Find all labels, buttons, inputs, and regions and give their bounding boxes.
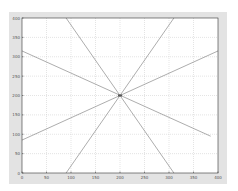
x-tick-label: 350 [190,175,198,180]
y-tick-label: 200 [12,93,20,98]
x-tick-label: 100 [67,175,75,180]
y-tick-label: 350 [12,35,20,40]
x-tick-label: 400 [214,175,222,180]
x-tick-label: 300 [165,175,173,180]
x-tick-label: 250 [141,175,149,180]
y-tick-label: 250 [12,74,20,79]
chart-plot: 0501001502002503003504000501001502002503… [0,0,238,191]
x-tick-label: 150 [92,175,100,180]
x-tick-label: 50 [44,175,50,180]
chart-figure: 0501001502002503003504000501001502002503… [0,0,238,191]
x-tick-label: 0 [21,175,24,180]
center-marker [118,95,122,97]
y-tick-label: 400 [12,16,20,21]
x-tick-label: 200 [116,175,124,180]
y-tick-label: 100 [12,132,20,137]
y-tick-label: 150 [12,112,20,117]
y-tick-label: 50 [15,151,21,156]
y-tick-label: 300 [12,54,20,59]
